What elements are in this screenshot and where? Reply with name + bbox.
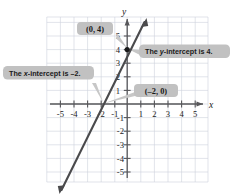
- x-axis-label: x: [208, 100, 214, 110]
- x-tick-label: 4: [179, 109, 184, 119]
- y-tick-label: -1: [117, 113, 124, 123]
- y-tick-label: 1: [116, 86, 120, 96]
- x-tick-label: 2: [152, 109, 156, 119]
- y-tick-label: 3: [116, 58, 120, 68]
- callout-suffix: -intercept is –2.: [28, 69, 81, 78]
- x-intercept-point-text: (–2, 0): [145, 87, 168, 96]
- callout-prefix: The: [9, 69, 24, 78]
- y-intercept-point-marker: [125, 47, 130, 52]
- x-tick-label: -5: [57, 109, 64, 119]
- y-tick-label: -3: [117, 140, 124, 150]
- y-tick-label: -2: [117, 126, 124, 136]
- x-tick-label: 1: [139, 109, 143, 119]
- x-intercept-point-callout: (–2, 0): [134, 84, 178, 97]
- x-intercept-callout: The x-intercept is –2.: [3, 66, 94, 80]
- y-tick-label: -4: [117, 154, 125, 164]
- callout-prefix: The: [145, 47, 160, 56]
- x-tick-label: -3: [84, 109, 91, 119]
- x-tick-label: -4: [70, 109, 78, 119]
- y-axis-label: y: [121, 7, 127, 17]
- x-tick-label: 5: [193, 109, 197, 119]
- x-intercept-callout-text: The x-intercept is –2.: [9, 69, 81, 78]
- callout-suffix: -intercept is 4.: [164, 47, 213, 56]
- y-intercept-point-callout: (0, 4): [77, 22, 113, 35]
- graph-figure: -5 -4 -3 -2 -1 1 2 3 4 5 5 4 3 2 1 -1 -2…: [0, 0, 233, 196]
- y-intercept-callout: The y-intercept is 4.: [139, 45, 230, 59]
- y-intercept-point-text: (0, 4): [86, 25, 104, 34]
- y-tick-label: 4: [116, 45, 121, 55]
- coordinate-plane-graph: -5 -4 -3 -2 -1 1 2 3 4 5 5 4 3 2 1 -1 -2…: [0, 0, 233, 196]
- x-tick-label: 3: [166, 109, 170, 119]
- y-intercept-callout-text: The y-intercept is 4.: [145, 47, 213, 56]
- y-tick-label: -5: [117, 167, 124, 177]
